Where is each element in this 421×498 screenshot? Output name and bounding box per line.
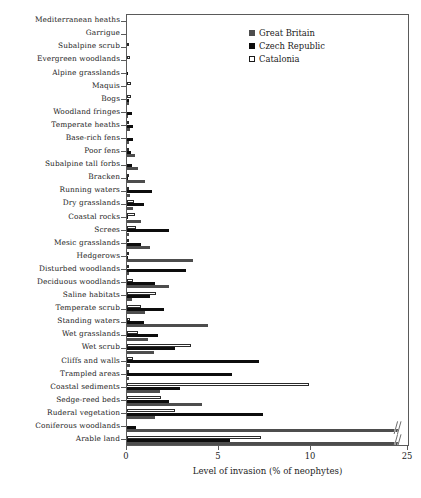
bar-group: [127, 305, 408, 315]
invasion-bar-chart-figure: Mediterranean heathsGarrigueSubalpine sc…: [0, 0, 421, 498]
category-label: Sedge-reed beds: [0, 396, 120, 404]
bar-great-britain: [127, 194, 130, 197]
bar-great-britain: [127, 233, 129, 236]
category-label: Poor fens: [0, 147, 120, 155]
x-axis-tick: [310, 446, 311, 450]
bar-group: [127, 82, 408, 92]
bar-group: [127, 292, 408, 302]
bar-czech-republic: [127, 72, 128, 75]
category-label: Base-rich fens: [0, 134, 120, 142]
bar-catalonia: [127, 56, 130, 59]
category-label: Wet grasslands: [0, 330, 120, 338]
bar-group: [127, 187, 408, 197]
bar-great-britain: [127, 272, 129, 275]
bar-great-britain: [127, 403, 202, 406]
bar-group: [127, 239, 408, 249]
bar-group: [127, 279, 408, 289]
bar-catalonia: [127, 82, 131, 85]
chart-legend: Great Britain Czech Republic Catalonia: [249, 27, 379, 66]
bar-czech-republic: [127, 269, 186, 272]
bar-group: [127, 226, 408, 236]
category-label: Arable land: [0, 435, 120, 443]
bar-great-britain: [127, 128, 130, 131]
bar-czech-republic: [127, 229, 169, 232]
bar-great-britain: [127, 416, 155, 419]
x-axis-tick: [126, 446, 127, 450]
x-axis-title: Level of invasion (% of neophytes): [126, 466, 409, 476]
category-label: Bracken: [0, 173, 120, 181]
bar-great-britain: [127, 115, 128, 118]
category-label: Screes: [0, 226, 120, 234]
category-label: Subalpine scrub: [0, 42, 120, 50]
legend-item-catalonia: Catalonia: [249, 53, 379, 65]
x-axis-tick: [407, 446, 408, 450]
x-axis-tick-label: 25: [402, 451, 413, 461]
bar-great-britain: [127, 141, 129, 144]
bar-great-britain: [127, 154, 135, 157]
legend-swatch-icon-czech-republic: [249, 43, 255, 49]
bar-group: [127, 95, 408, 105]
category-axis-labels: Mediterranean heathsGarrigueSubalpine sc…: [0, 14, 120, 446]
bar-great-britain: [127, 220, 141, 223]
category-label: Disturbed woodlands: [0, 265, 120, 273]
bar-great-britain: [127, 351, 154, 354]
bar-group: [127, 331, 408, 341]
legend-item-czech-republic: Czech Republic: [249, 40, 379, 52]
bar-group: [127, 265, 408, 275]
bar-group: [127, 213, 408, 223]
bar-great-britain: [127, 311, 145, 314]
category-label: Coastal sediments: [0, 383, 120, 391]
bar-group: [127, 396, 408, 406]
bar-group: [127, 200, 408, 210]
bar-great-britain: [127, 442, 398, 445]
category-label: Temperate scrub: [0, 304, 120, 312]
bar-great-britain: [127, 180, 145, 183]
category-label: Temperate heaths: [0, 121, 120, 129]
bar-great-britain: [127, 285, 169, 288]
category-label: Bogs: [0, 95, 120, 103]
bar-great-britain: [127, 246, 150, 249]
legend-label-catalonia: Catalonia: [259, 54, 300, 64]
bar-group: [127, 370, 408, 380]
bar-great-britain: [127, 298, 132, 301]
category-label: Woodland fringes: [0, 108, 120, 116]
bar-group: [127, 161, 408, 171]
category-label: Ruderal vegetation: [0, 409, 120, 417]
category-label: Subalpine tall forbs: [0, 160, 120, 168]
bar-great-britain: [127, 390, 160, 393]
bar-great-britain: [127, 429, 398, 432]
category-label: Standing waters: [0, 317, 120, 325]
category-label: Garrigue: [0, 29, 120, 37]
bar-group: [127, 121, 408, 131]
bar-group: [127, 423, 408, 433]
bar-group: [127, 318, 408, 328]
category-label: Deciduous woodlands: [0, 278, 120, 286]
category-label: Dry grasslands: [0, 199, 120, 207]
legend-item-great-britain: Great Britain: [249, 27, 379, 39]
bar-group: [127, 108, 408, 118]
legend-label-great-britain: Great Britain: [259, 28, 315, 38]
category-label: Mediterranean heaths: [0, 16, 120, 24]
bar-group: [127, 344, 408, 354]
category-label: Saline habitats: [0, 291, 120, 299]
bar-group: [127, 409, 408, 419]
category-label: Running waters: [0, 186, 120, 194]
bar-group: [127, 148, 408, 158]
bar-great-britain: [127, 324, 208, 327]
bar-great-britain: [127, 102, 129, 105]
bar-great-britain: [127, 364, 130, 367]
bar-great-britain: [127, 377, 129, 380]
bar-great-britain: [127, 259, 193, 262]
bar-czech-republic: [127, 360, 259, 363]
x-axis-tick-label: 0: [123, 451, 128, 461]
bar-catalonia: [127, 43, 129, 46]
bar-czech-republic: [127, 373, 232, 376]
category-label: Alpine grasslands: [0, 69, 120, 77]
bar-great-britain: [127, 207, 133, 210]
x-axis: 051025: [126, 446, 409, 466]
bar-group: [127, 174, 408, 184]
bar-group: [127, 17, 408, 27]
x-axis-tick-label: 5: [215, 451, 220, 461]
bar-group: [127, 357, 408, 367]
legend-label-czech-republic: Czech Republic: [259, 41, 325, 51]
